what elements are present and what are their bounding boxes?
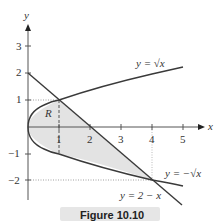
x-tick-label: 1 (56, 134, 62, 145)
y-tick-label: −1 (8, 148, 20, 159)
y-tick-label: −2 (8, 175, 20, 186)
x-tick-label: 2 (87, 134, 93, 145)
y-axis-label: y (24, 10, 29, 21)
label-neg-sqrt-x: y = −√x (165, 168, 201, 179)
x-tick-label: 5 (180, 134, 186, 145)
region-figure (0, 0, 219, 221)
figure-caption-text: Figure 10.10 (80, 209, 144, 221)
x-tick-label: 3 (118, 134, 124, 145)
y-tick-label: 2 (16, 67, 22, 78)
figure-caption: Figure 10.10 (60, 207, 160, 221)
label-2-minus-x: y = 2 − x (120, 190, 161, 201)
x-axis-arrow-icon (198, 124, 205, 130)
x-tick-label: 4 (149, 134, 155, 145)
y-tick-label: 1 (16, 94, 22, 105)
y-tick-label: 3 (16, 41, 22, 52)
region-label-r: R (45, 108, 52, 119)
y-axis-arrow-icon (25, 24, 31, 31)
x-axis-label: x (208, 121, 213, 132)
label-sqrt-x: y = √x (136, 58, 165, 69)
